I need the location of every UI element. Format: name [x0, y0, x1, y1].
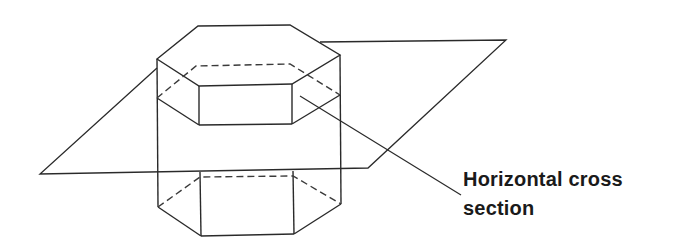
- top-hexagon-face: [157, 25, 340, 86]
- label-leader-line: [300, 96, 461, 195]
- label-line-1: Horizontal cross: [463, 165, 623, 194]
- label-line-2: section: [463, 194, 623, 223]
- upper-cut-section: [157, 64, 340, 125]
- horizontal-plane: [40, 40, 506, 174]
- bottom-hexagon-section: [158, 171, 341, 236]
- cross-section-label: Horizontal cross section: [463, 165, 623, 223]
